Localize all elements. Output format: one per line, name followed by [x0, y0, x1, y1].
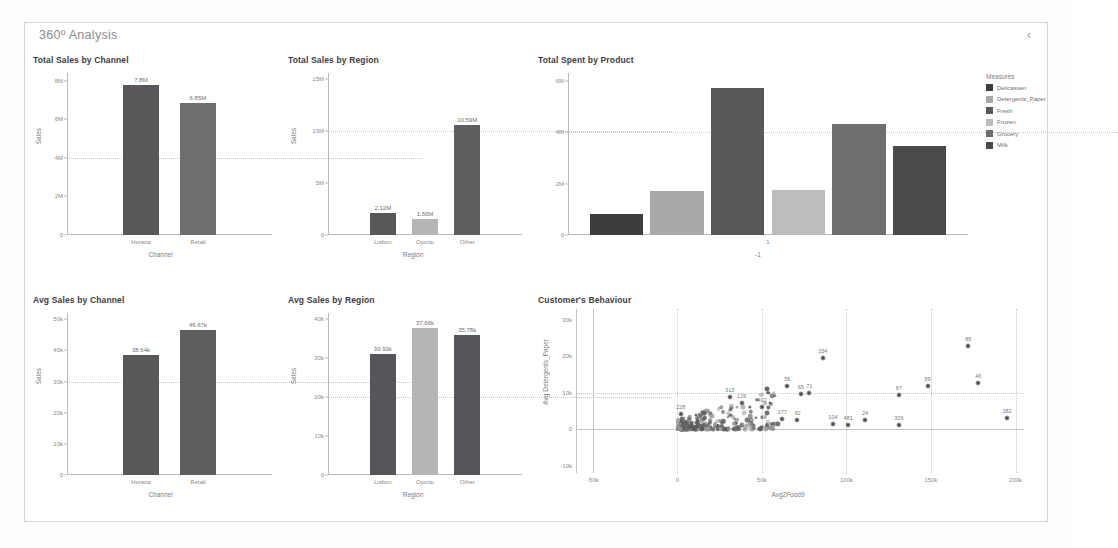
scatter-point — [769, 393, 774, 398]
legend-item[interactable]: Delicassen — [986, 84, 1046, 91]
scatter-point-label: 326 — [894, 415, 903, 421]
y-tick-mark — [64, 319, 67, 320]
y-tick-label: 15M — [312, 76, 324, 82]
y-tick-label: 8M — [55, 78, 63, 84]
legend-label: Fresh — [997, 108, 1012, 114]
y-axis-title: Sales — [35, 128, 42, 144]
y-tick-mark — [325, 435, 328, 436]
scatter-point — [708, 421, 712, 425]
y-tick-label: 20k — [562, 353, 572, 359]
chevron-left-icon[interactable]: ‹ — [1021, 27, 1037, 43]
bar: 2.12M — [370, 213, 396, 235]
bar-value-label: 10.59M — [457, 117, 477, 123]
scatter-point-labeled — [1005, 415, 1010, 420]
y-tick-label: 40k — [53, 347, 63, 353]
legend-swatch — [986, 84, 993, 91]
bar — [590, 214, 643, 235]
y-axis-avg-sales-by-channel — [67, 313, 68, 475]
bar: 30.93k — [370, 354, 396, 475]
chart-panel-total-spent-by-product: Total Spent by Product02M4M6M1-1Measures… — [538, 55, 978, 275]
scatter-point — [729, 408, 732, 411]
legend-label: Delicassen — [997, 85, 1026, 91]
scatter-point — [710, 413, 715, 418]
x-tick-label: 200k — [1009, 477, 1022, 483]
legend-item[interactable]: Milk — [986, 142, 1046, 149]
scatter-point — [717, 407, 721, 411]
scatter-point-label: 59 — [925, 376, 931, 382]
scatter-point — [741, 411, 746, 416]
scatter-point-labeled — [966, 344, 971, 349]
y-tick-mark — [325, 235, 328, 236]
grid-vertical — [1016, 309, 1017, 473]
scatter-point-label: 481 — [844, 415, 853, 421]
bar: 35.78k — [454, 335, 480, 475]
scatter-point — [728, 414, 732, 418]
grid-vertical — [931, 309, 932, 473]
y-axis-total-spent-by-product — [568, 73, 569, 235]
scatter-point — [689, 421, 694, 426]
y-tick-mark — [325, 183, 328, 184]
scatter-point-label: 24 — [862, 410, 868, 416]
y-tick-mark — [565, 235, 568, 236]
y-tick-label: 0 — [321, 472, 324, 478]
scatter-point-labeled — [795, 418, 800, 423]
legend-item[interactable]: Frozen — [986, 119, 1046, 126]
legend-item[interactable]: Detergents_Paper — [986, 96, 1046, 103]
scatter-point-label: 85 — [965, 336, 971, 342]
bar-value-label: 37.66k — [416, 320, 434, 326]
y-tick-mark — [325, 318, 328, 319]
scatter-point — [776, 421, 781, 426]
chart-panel-avg-sales-by-channel: Avg Sales by Channel010k20k30k40k50k38.6… — [33, 295, 288, 515]
bar: 1.56M — [412, 219, 438, 235]
x-tick-label: Horeca — [131, 479, 150, 485]
chart-panel-total-sales-by-channel: Total Sales by Channel02M4M6M8M7.8MHorec… — [33, 55, 288, 275]
plot-area-total-sales-by-region: 05M10M15M2.12MLisbon1.56MOporto10.59MOth… — [328, 73, 522, 235]
legend-item[interactable]: Fresh — [986, 107, 1046, 114]
y-tick-mark — [64, 235, 67, 236]
y-tick-label: 0 — [60, 472, 63, 478]
plot-axis-border — [576, 309, 577, 473]
y-axis-title: Sales — [35, 368, 42, 384]
legend-title: Measures — [986, 73, 1046, 80]
y-tick-mark — [325, 475, 328, 476]
scatter-point — [767, 406, 770, 409]
legend-swatch — [986, 96, 993, 103]
bar: 37.66k — [412, 328, 438, 475]
legend-item[interactable]: Grocery — [986, 130, 1046, 137]
chart-title-avg-sales-by-region: Avg Sales by Region — [288, 295, 375, 305]
y-tick-label: 20k — [53, 410, 63, 416]
scatter-point-label: 334 — [818, 348, 827, 354]
bar: 10.59M — [454, 125, 480, 235]
chart-title-total-sales-by-region: Total Sales by Region — [288, 55, 379, 65]
x-tick-label: Lisbon — [374, 239, 392, 245]
x-tick-label: Other — [460, 239, 475, 245]
bar-value-label: 7.8M — [134, 77, 147, 83]
y-tick-label: 30k — [562, 317, 572, 323]
scatter-point-labeled — [896, 423, 901, 428]
x-axis-title: Region — [403, 491, 424, 498]
x-axis-title: Channel — [148, 491, 172, 498]
y-axis-avg-sales-by-region — [328, 313, 329, 475]
bar-value-label: 30.93k — [374, 346, 392, 352]
chart-panel-avg-sales-by-region: Avg Sales by Region010k20k30k40k30.93kLi… — [288, 295, 538, 515]
y-tick-mark — [325, 357, 328, 358]
scatter-point — [737, 427, 741, 431]
scatter-point — [702, 411, 707, 416]
y-tick-label: 10k — [562, 390, 572, 396]
y-tick-mark — [325, 79, 328, 80]
y-axis-title: Avg Detergents_Paper — [542, 339, 549, 405]
y-tick-label: 6M — [556, 78, 564, 84]
y-tick-label: 30k — [314, 355, 324, 361]
chart-legend: MeasuresDelicassenDetergents_PaperFreshF… — [986, 73, 1046, 153]
y-tick-label: 0 — [60, 232, 63, 238]
x-tick-label: Horeca — [131, 239, 150, 245]
y-tick-label: 0 — [569, 426, 572, 432]
scatter-point-label: 71 — [806, 383, 812, 389]
y-tick-label: 6M — [55, 116, 63, 122]
scatter-point-labeled — [896, 393, 901, 398]
plot-area-avg-sales-by-channel: 010k20k30k40k50k38.64kHoreca46.67kRetail — [67, 313, 272, 475]
x-axis-title: Region — [403, 251, 424, 258]
x-tick-label: 0 — [676, 477, 679, 483]
scatter-point — [765, 411, 770, 416]
chart-title-avg-sales-by-channel: Avg Sales by Channel — [33, 295, 125, 305]
